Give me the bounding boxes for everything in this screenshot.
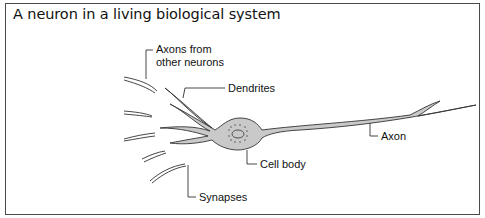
label-synapses: Synapses: [199, 191, 247, 204]
neuron-illustration: [0, 0, 485, 218]
incoming-axons: [124, 77, 186, 183]
label-dendrites: Dendrites: [228, 82, 275, 95]
label-axons-line1: Axons from: [156, 43, 224, 56]
label-axons-line2: other neurons: [156, 56, 224, 69]
label-axons-from-other-neurons: Axons from other neurons: [156, 43, 224, 69]
neuron-shape: [160, 88, 476, 150]
label-axon: Axon: [381, 130, 406, 143]
label-cell-body: Cell body: [260, 158, 306, 171]
